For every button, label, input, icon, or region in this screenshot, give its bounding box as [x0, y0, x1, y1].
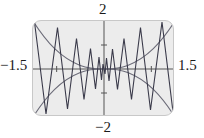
figure-container: 2 −2 −1.5 1.5: [0, 0, 204, 138]
plot-frame: [32, 20, 174, 116]
x-min-label: −1.5: [0, 58, 27, 73]
y-min-label: −2: [95, 120, 111, 135]
x-max-label: 1.5: [178, 58, 197, 73]
y-max-label: 2: [99, 2, 107, 17]
plot-canvas: [33, 21, 174, 116]
